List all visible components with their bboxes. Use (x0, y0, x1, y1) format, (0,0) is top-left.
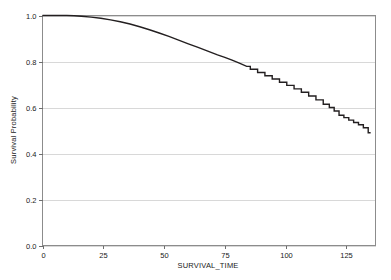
y-tick-label-0: 0.0 (26, 242, 36, 251)
y-tick-label-3: 0.6 (26, 104, 36, 113)
y-tick-label-4: 0.8 (26, 58, 36, 67)
x-tick-label-1: 25 (99, 251, 107, 260)
plot-frame-border (43, 16, 376, 246)
plot-frame (43, 16, 376, 246)
y-tick-label-2: 0.4 (26, 150, 36, 159)
survival-probability-curve (43, 16, 371, 133)
x-tick-label-3: 75 (221, 251, 229, 260)
x-tick-label-4: 100 (280, 251, 293, 260)
y-tick-label-1: 0.2 (26, 196, 36, 205)
x-tick-label-0: 0 (41, 251, 45, 260)
survival-curve-chart: 0255075100125 0.00.20.40.60.81.0 SURVIVA… (0, 0, 391, 280)
x-tick-label-2: 50 (160, 251, 168, 260)
y-tick-label-5: 1.0 (26, 12, 36, 21)
x-axis-title: SURVIVAL_TIME (177, 261, 238, 270)
y-axis-tick-labels-group: 0.00.20.40.60.81.0 (26, 12, 36, 251)
plot-canvas: 0255075100125 0.00.20.40.60.81.0 SURVIVA… (0, 0, 391, 280)
x-axis-tick-labels-group: 0255075100125 (41, 251, 352, 260)
x-tick-label-5: 125 (340, 251, 353, 260)
y-axis-title: Survival Probability (9, 96, 18, 164)
series-group (43, 16, 371, 133)
